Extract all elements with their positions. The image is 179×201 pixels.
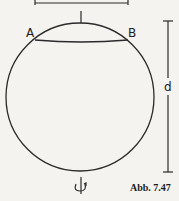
rotation-axis-icon bbox=[75, 177, 86, 194]
figure-caption: Abb. 7.47 bbox=[130, 183, 171, 193]
diameter-dimension bbox=[163, 21, 173, 172]
chord-ab bbox=[35, 40, 128, 42]
sphere-outline bbox=[6, 23, 154, 171]
point-a-label: A bbox=[26, 27, 34, 39]
diameter-label: d bbox=[164, 81, 172, 93]
chord-width-dimension bbox=[35, 0, 128, 5]
point-b-label: B bbox=[128, 27, 136, 39]
